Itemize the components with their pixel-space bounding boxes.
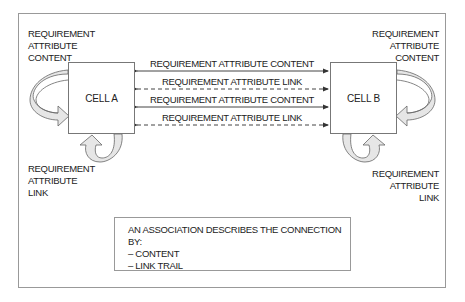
association-title: AN ASSOCIATION DESCRIBES THE CONNECTION … <box>128 224 350 248</box>
cell-a-label: CELL A <box>85 93 117 104</box>
association-item: – CONTENT <box>128 248 350 260</box>
connection-label: REQUIREMENT ATTRIBUTE CONTENT <box>150 94 314 105</box>
association-item: – LINK TRAIL <box>128 260 350 272</box>
label-b-content: REQUIREMENT ATTRIBUTE CONTENT <box>372 28 439 64</box>
cell-b-label: CELL B <box>347 93 380 104</box>
self-loop-arrow-b-content <box>396 70 435 126</box>
association-box: AN ASSOCIATION DESCRIBES THE CONNECTION … <box>114 217 351 271</box>
self-loop-arrow-b-link <box>343 134 385 162</box>
label-b-link: REQUIREMENT ATTRIBUTE LINK <box>372 168 439 204</box>
cell-b: CELL B <box>330 62 397 134</box>
label-a-link: REQUIREMENT ATTRIBUTE LINK <box>28 163 95 199</box>
self-loop-arrow-a-link <box>80 134 122 162</box>
connection-label: REQUIREMENT ATTRIBUTE LINK <box>162 112 302 123</box>
cell-a: CELL A <box>68 62 135 134</box>
connection-label: REQUIREMENT ATTRIBUTE LINK <box>162 76 302 87</box>
label-a-content: REQUIREMENT ATTRIBUTE CONTENT <box>28 28 95 64</box>
connection-label: REQUIREMENT ATTRIBUTE CONTENT <box>150 58 314 69</box>
self-loop-arrow-a-content <box>30 70 69 126</box>
